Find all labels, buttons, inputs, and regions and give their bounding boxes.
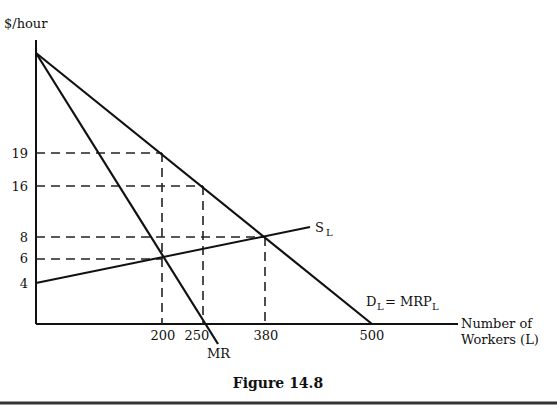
mr-curve [36, 53, 218, 344]
y-tick-19: 19 [11, 146, 28, 161]
x-axis-label-line2: Workers (L) [461, 332, 539, 347]
svg-text:L: L [326, 227, 333, 238]
y-tick-16: 16 [11, 179, 28, 194]
demand-mrp-curve [36, 53, 372, 324]
figure-caption: Figure 14.8 [233, 375, 323, 391]
svg-text:= MRP: = MRP [385, 294, 432, 309]
y-tick-6: 6 [20, 251, 28, 266]
x-tick-500: 500 [360, 328, 385, 343]
svg-text:L: L [432, 301, 439, 312]
x-tick-250: 250 [185, 328, 210, 343]
supply-label: S L [315, 220, 333, 238]
demand-label: D L = MRP L [366, 294, 439, 312]
x-axis-label-line1: Number of [461, 316, 533, 331]
guide-lines [36, 153, 265, 324]
x-tick-380: 380 [254, 328, 279, 343]
svg-text:D: D [366, 294, 376, 309]
supply-curve [36, 227, 310, 283]
svg-text:L: L [377, 301, 384, 312]
y-tick-8: 8 [20, 230, 28, 245]
mr-label: MR [207, 346, 231, 361]
labor-market-chart: $/hour 19 16 8 6 4 200 250 380 500 Numbe… [0, 0, 557, 407]
y-tick-4: 4 [20, 276, 28, 291]
svg-text:S: S [315, 220, 324, 235]
y-axis-label: $/hour [4, 16, 48, 31]
x-tick-200: 200 [151, 328, 176, 343]
